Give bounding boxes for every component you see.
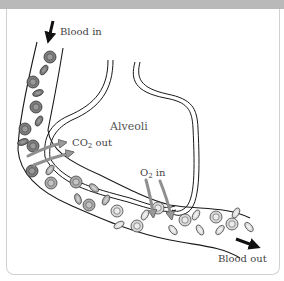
alveolus-outline (45, 60, 199, 215)
label-alveoli: Alveoli (109, 120, 148, 133)
label-blood-in: Blood in (60, 26, 102, 37)
label-o2-in: O2 in (140, 167, 166, 180)
blood-in-arrow (49, 21, 53, 38)
gas-exchange-diagram: Blood in Blood out Alveoli CO2 out O2 in (0, 0, 284, 281)
label-blood-out: Blood out (218, 253, 267, 264)
label-co2-out: CO2 out (72, 137, 112, 150)
blood-out-arrow (236, 239, 255, 246)
